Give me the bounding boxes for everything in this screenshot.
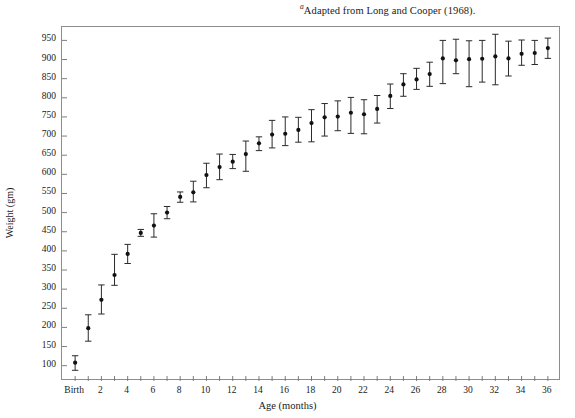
- x-tick-label: 18: [306, 385, 316, 395]
- x-tick-label: 14: [253, 385, 263, 395]
- x-tick-label: 30: [463, 385, 473, 395]
- x-tick-label-group: Birth24681012141618202224262830323436: [0, 0, 575, 418]
- x-tick-label: 26: [411, 385, 421, 395]
- x-tick-label: 2: [98, 385, 103, 395]
- x-tick-label: 16: [279, 385, 289, 395]
- x-axis-title: Age (months): [0, 400, 575, 411]
- x-tick-label: Birth: [64, 385, 84, 395]
- x-tick-label: 6: [151, 385, 156, 395]
- x-tick-label: 12: [227, 385, 237, 395]
- x-tick-label: 34: [516, 385, 526, 395]
- x-tick-label: 10: [201, 385, 211, 395]
- x-tick-label: 8: [177, 385, 182, 395]
- x-tick-label: 36: [542, 385, 552, 395]
- x-tick-label: 28: [437, 385, 447, 395]
- x-tick-label: 22: [358, 385, 368, 395]
- x-tick-label: 4: [124, 385, 129, 395]
- weight-vs-age-figure: aAdapted from Long and Cooper (1968). We…: [0, 0, 575, 418]
- x-tick-label: 24: [385, 385, 395, 395]
- x-tick-label: 32: [490, 385, 500, 395]
- x-tick-label: 20: [332, 385, 342, 395]
